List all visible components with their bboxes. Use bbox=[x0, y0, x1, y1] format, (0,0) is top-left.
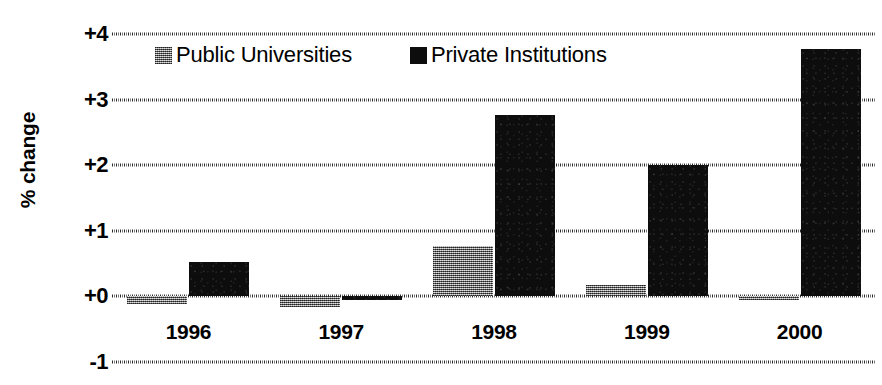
legend-label: Public Universities bbox=[176, 42, 352, 68]
legend-swatch-private-icon bbox=[410, 47, 427, 64]
x-axis-label-1996: 1996 bbox=[166, 320, 212, 344]
chart-legend: Public UniversitiesPrivate Institutions bbox=[155, 42, 607, 68]
x-axis-label-1997: 1997 bbox=[318, 320, 364, 344]
y-axis-tick-label: +3 bbox=[50, 89, 108, 111]
bar-1997-private bbox=[342, 296, 402, 299]
bar-1999-public bbox=[586, 285, 646, 296]
bar-1996-public bbox=[127, 296, 187, 303]
bar-1998-public bbox=[433, 246, 493, 297]
y-axis-tick-label: +0 bbox=[50, 285, 108, 307]
x-axis-label-1998: 1998 bbox=[471, 320, 517, 344]
gridline bbox=[112, 164, 876, 167]
bar-chart: % change +4+3+2+1+0-1 199619971998199920… bbox=[0, 0, 882, 385]
legend-item-public: Public Universities bbox=[155, 42, 352, 68]
legend-swatch-public-icon bbox=[155, 47, 172, 64]
gridline bbox=[112, 98, 876, 101]
y-axis-tick-label: -1 bbox=[50, 351, 108, 373]
y-axis-tick-labels: +4+3+2+1+0-1 bbox=[30, 0, 108, 385]
bar-2000-private bbox=[801, 49, 861, 296]
y-axis-tick-label: +4 bbox=[50, 23, 108, 45]
x-axis-label-1999: 1999 bbox=[624, 320, 670, 344]
legend-item-private: Private Institutions bbox=[410, 42, 607, 68]
bar-1998-private bbox=[495, 115, 555, 297]
bar-2000-public bbox=[739, 296, 799, 300]
gridline bbox=[112, 229, 876, 232]
gridline bbox=[112, 33, 876, 36]
bar-1999-private bbox=[648, 165, 708, 296]
gridline bbox=[112, 361, 876, 364]
bar-1997-public bbox=[280, 296, 340, 306]
x-axis-label-2000: 2000 bbox=[777, 320, 823, 344]
y-axis-tick-label: +2 bbox=[50, 154, 108, 176]
legend-label: Private Institutions bbox=[431, 42, 607, 68]
y-axis-tick-label: +1 bbox=[50, 220, 108, 242]
bar-1996-private bbox=[189, 262, 249, 296]
